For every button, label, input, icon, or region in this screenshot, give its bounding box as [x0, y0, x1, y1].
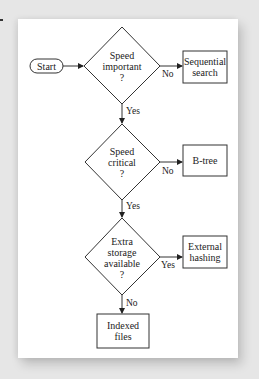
d1-line-3: ? [120, 72, 124, 83]
start-label: Start [30, 59, 63, 73]
d1-line-2: important [103, 61, 142, 72]
indexed-line-1: Indexed [107, 320, 139, 331]
hash-line-2: hashing [189, 252, 220, 263]
decision-3-label: Extra storage available ? [92, 235, 152, 281]
indexed-files-label: Indexed files [97, 314, 149, 348]
edge-label-d1-yes: Yes [126, 106, 140, 116]
b-tree-label: B-tree [183, 145, 227, 176]
seq-line-1: Sequential [184, 56, 226, 67]
sequential-search-label: Sequential search [183, 51, 227, 83]
d3-line-2: storage [108, 247, 137, 258]
decision-2-label: Speed critical ? [92, 142, 152, 182]
d3-line-1: Extra [111, 236, 133, 247]
edge-label-d2-yes: Yes [126, 201, 140, 211]
d2-line-3: ? [120, 168, 124, 179]
indexed-line-2: files [114, 331, 131, 342]
d2-line-2: critical [108, 157, 136, 168]
d2-line-1: Speed [110, 146, 134, 157]
edge-label-d2-no: No [162, 166, 174, 176]
seq-line-2: search [192, 67, 218, 78]
edge-label-d3-yes: Yes [161, 260, 175, 270]
btree-line-1: B-tree [193, 155, 218, 166]
d3-line-4: ? [120, 269, 124, 280]
hash-line-1: External [188, 241, 222, 252]
external-hashing-label: External hashing [183, 236, 227, 268]
d3-line-3: available [104, 258, 140, 269]
decision-1-label: Speed important ? [92, 46, 152, 86]
d1-line-1: Speed [110, 50, 134, 61]
edge-label-d3-no: No [126, 298, 138, 308]
start-text: Start [37, 61, 56, 72]
edge-label-d1-no: No [162, 69, 174, 79]
